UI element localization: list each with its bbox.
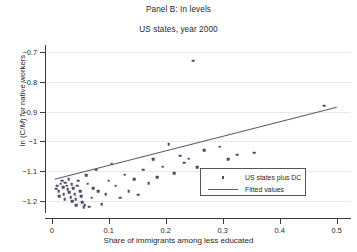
data-point <box>253 151 256 154</box>
data-point <box>72 187 75 190</box>
y-tick-mark <box>40 82 45 83</box>
data-point <box>227 158 230 161</box>
data-point <box>80 195 83 198</box>
y-axis-title-italic: M <box>18 121 27 128</box>
x-tick-label: 0.1 <box>89 226 129 235</box>
x-tick-label: 0.5 <box>317 226 357 235</box>
data-point <box>69 196 72 199</box>
data-point <box>187 157 190 160</box>
data-point <box>83 204 86 207</box>
data-point <box>203 149 206 152</box>
y-tick-mark <box>40 201 45 202</box>
data-point <box>77 179 80 182</box>
x-tick-mark <box>223 219 224 224</box>
y-tick-mark <box>40 52 45 53</box>
data-point <box>114 185 117 188</box>
data-point <box>236 153 239 156</box>
data-point <box>61 179 64 182</box>
data-point <box>162 165 165 168</box>
y-tick-mark <box>40 171 45 172</box>
data-point <box>88 205 91 208</box>
data-point <box>119 196 122 199</box>
x-tick-mark <box>280 219 281 224</box>
data-point <box>65 185 68 188</box>
y-tick-mark <box>40 112 45 113</box>
data-point <box>56 185 59 188</box>
data-point <box>81 201 84 204</box>
legend-marker-icon <box>201 176 245 179</box>
y-axis-line <box>45 45 46 213</box>
data-point <box>62 186 65 189</box>
data-point <box>86 182 89 185</box>
data-point <box>133 178 136 181</box>
y-tick-label: −1.2 <box>0 196 37 205</box>
data-point <box>127 190 130 193</box>
legend-label-us-states: US states plus DC <box>245 174 301 181</box>
data-point <box>105 193 108 196</box>
data-point <box>95 168 98 171</box>
data-point <box>90 196 93 199</box>
data-point <box>70 183 73 186</box>
data-point <box>101 203 104 206</box>
data-point <box>64 198 67 201</box>
data-point <box>107 179 110 182</box>
data-point <box>137 193 140 196</box>
data-point <box>68 178 71 181</box>
chart-subtitle: US states, year 2000 <box>0 25 357 34</box>
data-point <box>156 176 159 179</box>
data-point <box>92 187 95 190</box>
x-tick-label: 0.3 <box>203 226 243 235</box>
data-point <box>152 158 155 161</box>
x-tick-label: 0.4 <box>260 226 300 235</box>
data-point <box>183 161 186 164</box>
legend-line-icon <box>201 189 245 190</box>
data-point <box>179 154 182 157</box>
data-point <box>110 162 113 165</box>
x-axis-title: Share of immigrants among less educated <box>0 236 357 245</box>
legend-item-fitted-values: Fitted values <box>201 183 307 196</box>
y-axis-title-suffix: ) for native workers <box>18 55 27 121</box>
data-point <box>97 190 100 193</box>
data-point <box>323 104 326 107</box>
legend-label-fitted-values: Fitted values <box>245 186 284 193</box>
data-point <box>76 185 79 188</box>
data-point <box>57 190 60 193</box>
data-point <box>71 200 74 203</box>
x-tick-mark <box>337 219 338 224</box>
x-tick-label: 0.2 <box>146 226 186 235</box>
data-point <box>68 191 71 194</box>
data-point <box>167 143 170 146</box>
data-point <box>142 168 145 171</box>
data-point <box>147 182 150 185</box>
data-point <box>79 190 82 193</box>
chart-legend: US states plus DC Fitted values <box>200 168 306 196</box>
data-point <box>123 174 126 177</box>
data-point <box>85 174 88 177</box>
x-tick-mark <box>166 219 167 224</box>
x-tick-mark <box>109 219 110 224</box>
data-point <box>219 145 222 148</box>
data-point <box>192 59 195 62</box>
x-tick-mark <box>52 219 53 224</box>
y-tick-mark <box>40 141 45 142</box>
x-axis-line <box>45 218 351 219</box>
data-point <box>173 172 176 175</box>
data-point <box>60 182 63 185</box>
data-point <box>73 193 76 196</box>
chart-figure: Panel B: In levels US states, year 2000 … <box>0 0 357 252</box>
chart-title: Panel B: In levels <box>0 5 357 14</box>
data-point <box>62 193 65 196</box>
data-point <box>196 166 199 169</box>
x-tick-label: 0 <box>32 226 72 235</box>
data-point <box>58 195 61 198</box>
data-point <box>74 198 77 201</box>
data-point <box>75 204 78 207</box>
y-axis-title: ln (C/M) for native workers <box>18 21 27 181</box>
y-axis-title-prefix: ln (C/ <box>18 128 27 147</box>
